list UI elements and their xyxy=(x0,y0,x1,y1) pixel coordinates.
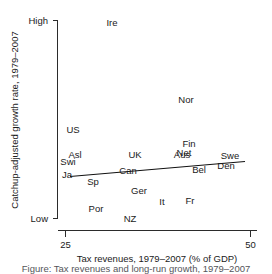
y-tick-label-high: High xyxy=(28,15,48,26)
data-point-ire: Ire xyxy=(106,17,117,28)
data-point-sp: Sp xyxy=(87,176,99,187)
data-point-ja: Ja xyxy=(62,169,73,180)
data-point-ger: Ger xyxy=(131,185,147,196)
data-point-can: Can xyxy=(119,165,136,176)
data-point-it: It xyxy=(159,196,165,207)
data-point-uk: UK xyxy=(128,149,142,160)
data-point-por: Por xyxy=(89,203,104,214)
x-axis-title: Tax revenues, 1979–2007 (% of GDP) xyxy=(77,253,238,264)
data-point-nz: NZ xyxy=(124,213,137,224)
chart-canvas: High Low 25 50 Catchup-adjusted growth r… xyxy=(0,0,272,274)
data-point-us: US xyxy=(66,124,79,135)
figure-caption-clipped: Figure: Tax revenues and long-run growth… xyxy=(0,265,272,274)
data-point-bel: Bel xyxy=(192,164,206,175)
figure-caption-text: Figure: Tax revenues and long-run growth… xyxy=(0,265,272,274)
data-point-fr: Fr xyxy=(186,195,195,206)
data-point-net: Net xyxy=(177,147,192,158)
x-tick-label-25: 25 xyxy=(60,239,71,250)
data-point-nor: Nor xyxy=(178,94,193,105)
y-axis-title: Catchup-adjusted growth rate, 1979–2007 xyxy=(9,31,20,208)
x-tick-label-50: 50 xyxy=(245,239,256,250)
data-point-den: Den xyxy=(217,160,234,171)
data-point-swi: Swi xyxy=(60,156,75,167)
y-tick-label-low: Low xyxy=(31,213,49,224)
scatter-chart-figure: High Low 25 50 Catchup-adjusted growth r… xyxy=(0,0,272,274)
